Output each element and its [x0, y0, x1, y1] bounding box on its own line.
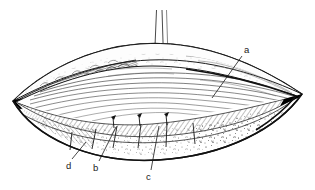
surgical-illustration: a b c d — [0, 0, 315, 190]
label-d: d — [66, 160, 71, 171]
label-b: b — [93, 162, 98, 173]
label-c: c — [146, 171, 151, 182]
figure-container: a b c d — [0, 0, 315, 190]
label-a: a — [244, 44, 250, 55]
